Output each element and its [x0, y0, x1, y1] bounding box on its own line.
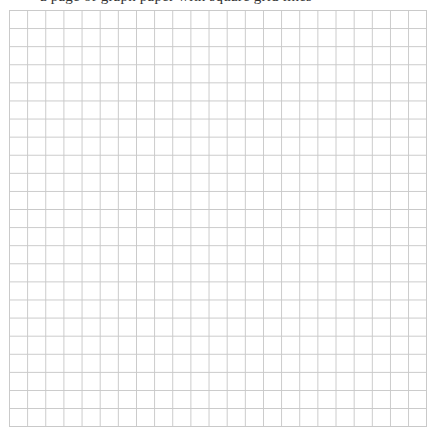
clipped-caption-text: a page of graph paper with square grid l…	[40, 0, 312, 5]
graph-paper-grid	[9, 10, 427, 427]
